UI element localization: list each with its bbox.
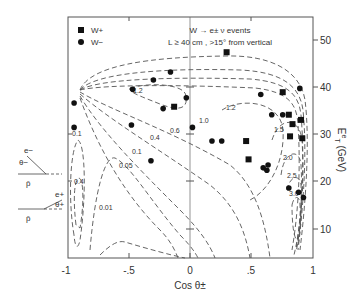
wplus-point — [286, 112, 292, 118]
wminus-point — [129, 122, 135, 128]
contour-label: 0.05 — [119, 162, 133, 169]
legend-label-wplus: W+ — [91, 26, 104, 35]
wplus-point — [289, 121, 295, 127]
wminus-point — [190, 125, 196, 131]
contour-label: 0.1 — [132, 148, 142, 155]
chart-subtitle: L ≥ 40 cm , >15° from vertical — [168, 38, 272, 47]
wminus-point — [130, 87, 136, 93]
x-axis-label: Cos θ± — [174, 280, 206, 291]
wminus-point — [148, 158, 154, 164]
x-tick-label: -1 — [62, 265, 71, 276]
wplus-point — [224, 49, 230, 55]
inset-top-beam: p̄ — [26, 179, 31, 188]
y-tick-label: 50 — [320, 35, 332, 46]
y-tick-label: 20 — [320, 176, 332, 187]
contour-label: 0.6 — [170, 127, 180, 134]
x-tick-label: 1 — [310, 265, 316, 276]
contour-label: 2.5 — [287, 172, 297, 179]
wminus-point — [160, 106, 166, 112]
wplus-point — [299, 135, 305, 141]
plot-frame — [68, 17, 313, 258]
chart-title: W → e± ν events — [190, 26, 251, 35]
wminus-point — [168, 69, 174, 75]
wminus-point — [151, 77, 157, 83]
x-axis: -1 -.5 0 .5 1 Cos θ± — [62, 17, 317, 291]
y-tick-label: 40 — [320, 82, 332, 93]
contour-label: 0.4 — [150, 134, 160, 141]
contour-label: 0.01 — [99, 204, 113, 211]
wminus-point — [296, 189, 302, 195]
x-tick-label: -.5 — [123, 265, 135, 276]
contour-label: 1.5 — [274, 126, 284, 133]
wplus-point — [171, 104, 177, 110]
contour-labels: 1.2 1.2 1.0 0.6 0.4 0.1 0.05 0.01 0.1 0.… — [72, 87, 299, 211]
wminus-point — [219, 138, 225, 144]
square-marker-icon — [78, 27, 84, 33]
wminus-point — [301, 195, 307, 201]
y-tick-label: 30 — [320, 129, 332, 140]
legend-label-wminus: W− — [91, 38, 104, 47]
contour-label: 0.1 — [72, 130, 82, 137]
contour-label: 0.4 — [74, 178, 84, 185]
wminus-point — [209, 138, 215, 144]
chart-figure: -1 -.5 0 .5 1 Cos θ± 10 20 30 40 50 EeT … — [0, 0, 360, 294]
y-axis-label: EeT (GeV) — [334, 128, 348, 172]
svg-text:EeT (GeV): EeT (GeV) — [334, 128, 348, 172]
inset-bottom-beam: p̄ — [26, 214, 31, 223]
wplus-point — [243, 138, 249, 144]
wplus-point — [280, 89, 286, 95]
contour-label: 2.0 — [283, 154, 293, 161]
inset-top-particle: e− — [24, 146, 33, 155]
legend: W+ W− — [78, 26, 104, 47]
kinematics-inset: e− θ− p̄ e+ θ+ p̄ — [18, 146, 64, 223]
wplus-point — [298, 117, 304, 123]
data-points — [71, 49, 306, 200]
wplus-point — [246, 156, 252, 162]
x-tick-label: 0 — [187, 265, 193, 276]
inset-top-angle: θ− — [19, 158, 28, 167]
inset-bottom-angle: θ+ — [55, 200, 64, 209]
wminus-point — [297, 86, 303, 92]
wminus-point — [71, 100, 77, 106]
wplus-point — [287, 133, 293, 139]
wminus-point — [265, 162, 271, 168]
wminus-point — [264, 167, 270, 173]
contour-lines — [71, 56, 308, 258]
x-tick-label: .5 — [247, 265, 256, 276]
inset-bottom-particle: e+ — [55, 190, 64, 199]
wminus-point — [184, 95, 190, 101]
wminus-point — [71, 125, 77, 131]
circle-marker-icon — [78, 39, 84, 45]
contour-label: 1.0 — [199, 117, 209, 124]
wminus-point — [280, 112, 286, 118]
y-tick-label: 10 — [320, 224, 332, 235]
contour-label: 1.2 — [226, 104, 236, 111]
wminus-point — [269, 112, 275, 118]
wminus-point — [258, 92, 264, 98]
wminus-point — [286, 185, 292, 191]
